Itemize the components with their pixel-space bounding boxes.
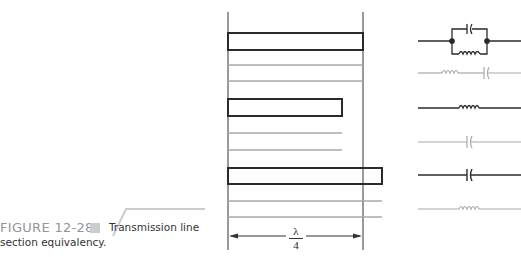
capacitor-symbol-2 xyxy=(418,169,521,181)
series-lc-symbol xyxy=(418,67,521,79)
open-stub-1 xyxy=(228,33,363,50)
open-stub-3 xyxy=(228,168,382,184)
inductor-symbol-2 xyxy=(418,207,521,210)
transmission-line-diagram xyxy=(0,0,521,257)
caption-text-line1: Transmission line xyxy=(109,221,199,233)
lambda-numerator: λ xyxy=(289,226,303,239)
quarter-wavelength-label: λ 4 xyxy=(289,226,303,251)
figure-number: FIGURE 12-28 xyxy=(0,220,94,235)
capacitor-symbol-1 xyxy=(418,136,521,148)
caption-marker-square xyxy=(90,223,100,233)
inductor-symbol-1 xyxy=(418,106,521,109)
caption-text-line2: section equivalency. xyxy=(0,236,106,248)
lambda-denominator: 4 xyxy=(289,239,303,251)
parallel-lc-symbol xyxy=(418,24,521,54)
open-stub-2 xyxy=(228,99,342,116)
